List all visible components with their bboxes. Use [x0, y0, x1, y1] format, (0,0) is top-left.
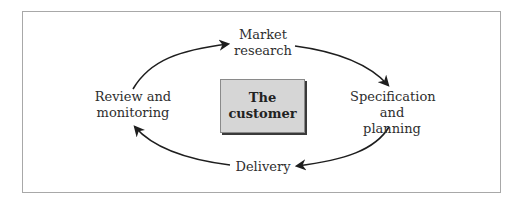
node-label-line: research [225, 43, 301, 59]
center-label-line: customer [228, 106, 296, 122]
node-label-line: Specification [350, 89, 434, 105]
arrow-review-to-market [133, 44, 228, 89]
node-specification-planning: Specification and planning [350, 89, 434, 137]
arrow-delivery-to-review [135, 127, 230, 165]
node-label-line: Market [225, 27, 301, 43]
center-label-line: The [249, 90, 276, 106]
arrow-market-to-specification [295, 46, 388, 85]
center-customer-box: The customer [220, 79, 305, 133]
node-label-line: Delivery [226, 159, 300, 175]
node-label-line: and planning [350, 105, 434, 137]
node-label-line: monitoring [93, 105, 173, 121]
node-delivery: Delivery [226, 159, 300, 175]
node-market-research: Market research [225, 27, 301, 59]
node-review-monitoring: Review and monitoring [93, 89, 173, 121]
node-label-line: Review and [93, 89, 173, 105]
